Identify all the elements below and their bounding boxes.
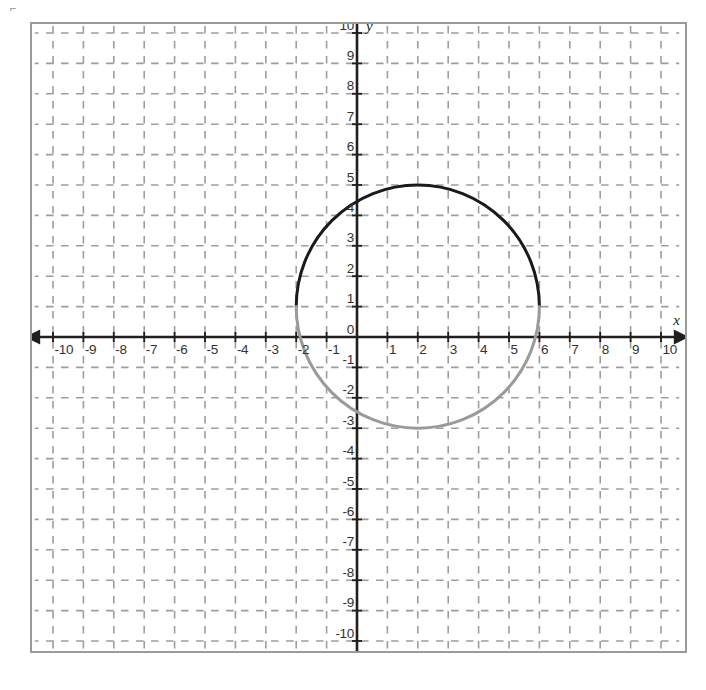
y-tick-label-neg6: -6: [324, 505, 354, 519]
coordinate-plane: -10-9-8-7-6-5-4-3-2-11234567891010987654…: [32, 24, 685, 651]
x-tick-label-9: 9: [632, 343, 658, 357]
x-tick-label-neg8: -8: [115, 343, 141, 357]
x-tick-label-5: 5: [511, 343, 537, 357]
x-tick-label-4: 4: [480, 343, 506, 357]
x-tick-label-neg3: -3: [267, 343, 293, 357]
y-tick-label-8: 8: [324, 79, 354, 93]
x-tick-label-neg10: -10: [55, 343, 81, 357]
y-tick-label-neg7: -7: [324, 535, 354, 549]
y-tick-label-neg3: -3: [324, 414, 354, 428]
y-tick-label-10: 10: [324, 22, 354, 33]
x-tick-label-neg9: -9: [85, 343, 111, 357]
y-tick-label-3: 3: [324, 231, 354, 245]
x-tick-label-neg4: -4: [237, 343, 263, 357]
y-tick-label-4: 4: [324, 201, 354, 215]
x-tick-label-2: 2: [419, 343, 445, 357]
circle-graph: [32, 24, 685, 651]
x-tick-label-3: 3: [450, 343, 476, 357]
y-tick-label-neg9: -9: [324, 596, 354, 610]
x-tick-label-neg5: -5: [207, 343, 233, 357]
worksheet-page: ⌐ -10-9-8-7-6-5-4-3-2-112345678910109876…: [0, 0, 706, 690]
y-tick-label-neg1: -1: [324, 353, 354, 367]
y-tick-label-neg4: -4: [324, 444, 354, 458]
x-axis-label: x: [673, 312, 680, 329]
x-tick-label-neg2: -2: [298, 343, 324, 357]
y-tick-label-neg2: -2: [324, 383, 354, 397]
x-tick-label-neg6: -6: [176, 343, 202, 357]
y-tick-label-6: 6: [324, 140, 354, 154]
x-tick-label-10: 10: [663, 343, 688, 357]
y-tick-label-2: 2: [324, 262, 354, 276]
x-tick-label-7: 7: [571, 343, 597, 357]
y-tick-label-neg10: -10: [324, 627, 354, 641]
y-tick-label-neg5: -5: [324, 475, 354, 489]
page-corner-mark: ⌐: [10, 3, 22, 14]
x-tick-label-8: 8: [602, 343, 628, 357]
y-tick-label-neg8: -8: [324, 566, 354, 580]
coordinate-plane-frame: -10-9-8-7-6-5-4-3-2-11234567891010987654…: [30, 22, 687, 653]
y-tick-label-5: 5: [324, 171, 354, 185]
y-tick-label-0: 0: [324, 323, 354, 337]
x-tick-label-6: 6: [541, 343, 567, 357]
x-tick-label-1: 1: [389, 343, 415, 357]
y-tick-label-9: 9: [324, 49, 354, 63]
y-tick-label-7: 7: [324, 110, 354, 124]
y-tick-label-1: 1: [324, 292, 354, 306]
x-tick-label-neg7: -7: [146, 343, 172, 357]
y-axis-label: y: [366, 22, 373, 35]
